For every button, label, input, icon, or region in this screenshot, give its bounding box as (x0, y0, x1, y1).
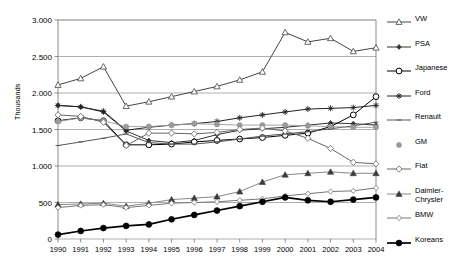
legend-item-fiat[interactable]: Fiat (386, 161, 476, 173)
data-point-marker (123, 223, 129, 229)
data-point-marker (327, 35, 333, 41)
legend-label: Koreans (412, 235, 443, 244)
data-point-marker (55, 232, 61, 238)
data-point-marker (282, 109, 288, 115)
legend-item-renault[interactable]: Renault (386, 112, 476, 124)
data-point-marker (373, 45, 379, 51)
data-point-marker (55, 112, 61, 118)
data-point-marker (397, 44, 401, 49)
data-point-marker (191, 131, 197, 137)
legend-label: Renault (412, 112, 441, 121)
legend-item-japanese[interactable]: Japanese (386, 63, 476, 75)
legend-marker-icon (386, 14, 412, 26)
data-point-marker (350, 112, 356, 118)
data-point-marker (350, 105, 356, 111)
legend-label: GM (412, 137, 427, 146)
data-point-marker (191, 212, 197, 218)
chart-container: Thousands 05001.0001.5002.0002.5003.000 … (0, 0, 476, 269)
data-point-marker (305, 197, 311, 203)
legend-marker-icon (386, 112, 412, 124)
legend-marker-icon (386, 210, 412, 222)
data-point-marker (350, 197, 356, 203)
data-point-marker (305, 106, 311, 112)
data-point-marker (146, 130, 152, 136)
legend-marker-icon (386, 186, 412, 198)
data-point-marker (169, 130, 175, 136)
legend-label: Ford (412, 88, 430, 97)
legend-item-psa[interactable]: PSA (386, 39, 476, 51)
data-point-marker (282, 194, 288, 200)
data-point-marker (214, 208, 220, 214)
data-point-marker (78, 228, 84, 234)
legend-label: VW (412, 14, 427, 23)
legend-item-koreans[interactable]: Koreans (386, 235, 476, 247)
data-point-marker (396, 93, 402, 99)
legend-marker-icon (386, 88, 412, 100)
legend-marker-icon (386, 137, 412, 149)
data-point-marker (124, 124, 129, 129)
data-point-marker (259, 112, 265, 118)
legend-label: BMW (412, 210, 433, 219)
data-point-marker (396, 240, 402, 246)
data-point-marker (351, 188, 356, 193)
data-point-marker (214, 122, 219, 127)
legend-item-bmw[interactable]: BMW (386, 210, 476, 222)
data-point-marker (237, 203, 243, 209)
legend-marker-icon (386, 235, 412, 247)
data-point-marker (101, 225, 107, 231)
data-point-marker (237, 188, 243, 194)
legend-label: Daimler- Chrysler (412, 186, 443, 204)
data-point-marker (78, 104, 84, 110)
data-point-marker (146, 222, 152, 228)
data-point-marker (169, 216, 175, 222)
data-point-marker (55, 102, 61, 108)
data-point-marker (396, 142, 401, 147)
data-point-marker (305, 135, 311, 141)
data-point-marker (373, 94, 379, 100)
data-point-marker (305, 123, 310, 128)
data-point-marker (397, 215, 402, 220)
data-point-marker (374, 185, 379, 190)
data-point-marker (373, 194, 379, 200)
data-point-marker (328, 124, 333, 129)
data-point-marker (328, 145, 334, 151)
legend-marker-icon (386, 39, 412, 51)
series-vw (55, 29, 379, 108)
data-point-marker (373, 125, 378, 130)
legend-marker-icon (386, 63, 412, 75)
data-point-marker (282, 29, 288, 35)
data-point-marker (55, 119, 60, 124)
data-point-marker (305, 191, 310, 196)
data-point-marker (260, 199, 266, 205)
data-point-marker (192, 121, 197, 126)
data-point-marker (259, 69, 265, 75)
data-point-marker (373, 102, 379, 108)
data-point-marker (351, 125, 356, 130)
chart-legend: VWPSAJapaneseFordRenaultGMFiatDaimler- C… (386, 0, 476, 269)
data-point-marker (146, 124, 151, 129)
data-point-marker (396, 166, 402, 172)
legend-item-gm[interactable]: GM (386, 137, 476, 149)
legend-item-daimler--chrysler[interactable]: Daimler- Chrysler (386, 186, 476, 204)
data-point-marker (100, 64, 106, 70)
data-point-marker (237, 126, 243, 132)
data-point-marker (283, 123, 288, 128)
data-point-marker (328, 199, 334, 205)
data-point-marker (396, 68, 402, 74)
data-point-marker (215, 199, 220, 204)
data-point-marker (350, 159, 356, 165)
data-point-marker (169, 123, 174, 128)
data-point-marker (100, 108, 106, 114)
legend-item-ford[interactable]: Ford (386, 88, 476, 100)
data-point-marker (328, 189, 333, 194)
legend-label: PSA (412, 39, 430, 48)
legend-item-vw[interactable]: VW (386, 14, 476, 26)
legend-label: Japanese (412, 63, 448, 72)
data-point-marker (328, 105, 334, 111)
legend-marker-icon (386, 161, 412, 173)
data-point-marker (78, 75, 84, 81)
legend-label: Fiat (412, 161, 428, 170)
data-point-marker (237, 115, 243, 121)
